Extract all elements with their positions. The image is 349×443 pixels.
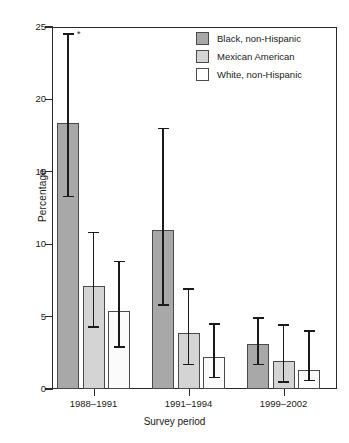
y-tick-25 [45,26,53,27]
legend-item-mexican-american: Mexican American [196,48,333,65]
plot-frame-top [52,27,337,28]
error-bar-cap-lower-2-2 [304,380,315,382]
y-tick-label-15: 15 [35,167,46,177]
y-tick-5 [45,316,53,317]
legend-swatch-icon-1 [196,50,209,63]
legend-swatch-icon-0 [196,32,209,45]
y-tick-10 [45,244,53,245]
error-bar-cap-upper-2-2 [304,330,315,332]
error-bar-cap-lower-1-2 [209,377,220,379]
plot-frame-right [336,27,337,389]
error-bar-line-0-1 [93,233,95,327]
legend-item-white-non-hispanic: White, non-Hispanic [196,66,333,83]
error-bar-cap-lower-2-0 [253,364,264,366]
y-tick-label-5: 5 [41,312,46,322]
x-axis-label: Survey period [0,416,349,427]
legend-swatch-icon-2 [196,68,209,81]
error-bar-line-0-0 [67,34,69,196]
y-tick-20 [45,99,53,100]
error-bar-cap-lower-1-0 [158,304,169,306]
error-bar-cap-upper-2-0 [253,317,264,319]
legend-label-0: Black, non-Hispanic [217,33,301,44]
y-tick-label-0: 0 [41,384,46,394]
error-bar-line-1-0 [162,128,164,305]
error-bar-cap-upper-0-2 [114,261,125,263]
error-bar-cap-lower-0-2 [114,346,125,348]
error-bar-cap-upper-1-1 [183,288,194,290]
error-bar-line-1-2 [213,324,215,378]
error-bar-cap-upper-1-2 [209,323,220,325]
y-tick-label-20: 20 [35,94,46,104]
x-tick-label-0: 1988–1991 [49,399,139,409]
error-bar-cap-upper-2-1 [278,324,289,326]
x-tick-label-2: 1999–2002 [239,399,329,409]
error-bar-cap-upper-0-1 [88,232,99,234]
x-tick-label-1: 1991–1994 [144,399,234,409]
significance-marker-0: * [77,30,81,39]
error-bar-cap-upper-1-0 [158,128,169,130]
figure-bar-chart: Percentage 0510152025 1988–19911991–1994… [0,0,349,443]
x-tick-2 [284,389,285,396]
legend-label-2: White, non-Hispanic [217,69,302,80]
error-bar-line-2-1 [283,325,285,381]
legend-item-black-non-hispanic: Black, non-Hispanic [196,30,333,47]
error-bar-cap-lower-0-1 [88,326,99,328]
y-tick-label-25: 25 [35,22,46,32]
error-bar-cap-lower-0-0 [63,196,74,198]
error-bar-line-0-2 [118,262,120,347]
x-tick-1 [189,389,190,396]
legend: Black, non-Hispanic Mexican American Whi… [196,30,333,84]
y-tick-15 [45,171,53,172]
error-bar-line-2-0 [257,318,259,364]
error-bar-cap-lower-1-1 [183,364,194,366]
x-tick-0 [94,389,95,396]
y-tick-label-10: 10 [35,239,46,249]
error-bar-cap-upper-0-0 [63,33,74,35]
error-bar-cap-lower-2-1 [278,381,289,383]
error-bar-line-2-2 [308,331,310,380]
legend-label-1: Mexican American [217,51,295,62]
error-bar-line-1-1 [188,289,190,364]
y-tick-0 [45,388,53,389]
